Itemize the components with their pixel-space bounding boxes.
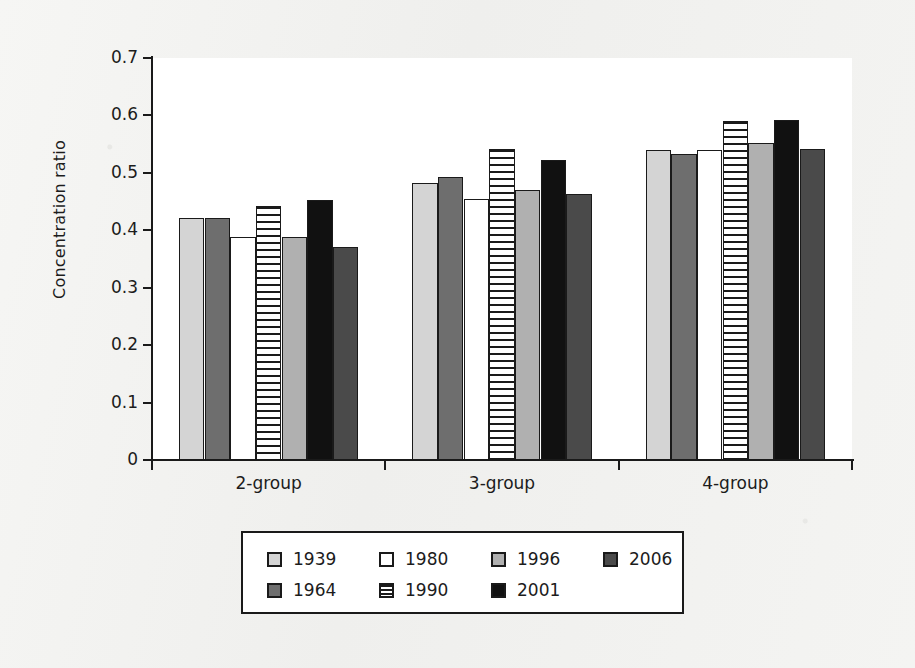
legend: 1939198019962006196419902001 (241, 531, 684, 614)
y-axis-tick-label: 0.2 (38, 336, 138, 353)
bar-4-group-1996 (748, 143, 774, 460)
legend-label: 1964 (293, 582, 336, 599)
x-axis-category-label: 3-group (385, 474, 618, 493)
plot-area (152, 58, 852, 460)
y-axis-tick (143, 229, 152, 231)
legend-label: 1939 (293, 551, 336, 568)
bar-3-group-2001 (541, 160, 567, 460)
x-axis-tick (618, 461, 620, 470)
legend-swatch-icon-1980 (379, 552, 394, 567)
bar-4-group-1980 (697, 150, 723, 460)
bar-4-group-2001 (774, 120, 800, 460)
bar-2-group-2001 (307, 200, 333, 460)
bar-3-group-1996 (515, 190, 541, 460)
legend-swatch-icon-1990 (379, 583, 394, 598)
legend-swatch-icon-2001 (491, 583, 506, 598)
bar-3-group-2006 (566, 194, 592, 460)
legend-label: 1996 (517, 551, 560, 568)
bar-2-group-1964 (205, 218, 231, 460)
legend-swatch-icon-2006 (603, 552, 618, 567)
bar-2-group-2006 (333, 247, 359, 460)
legend-item-1939[interactable]: 1939 (267, 551, 379, 568)
y-axis-tick (143, 172, 152, 174)
legend-swatch-icon-1964 (267, 583, 282, 598)
legend-swatch-icon-1939 (267, 552, 282, 567)
y-axis-tick (143, 287, 152, 289)
bar-chart: 0.70.60.50.40.30.20.10 2-group3-group4-g… (0, 0, 915, 668)
x-axis-line (151, 459, 854, 461)
legend-swatch-icon-1996 (491, 552, 506, 567)
bar-2-group-1980 (230, 237, 256, 460)
y-axis-tick-label: 0.7 (38, 49, 138, 66)
bar-2-group-1939 (179, 218, 205, 460)
x-axis-tick (384, 461, 386, 470)
y-axis-tick (143, 402, 152, 404)
bar-3-group-1980 (464, 199, 490, 460)
legend-item-1990[interactable]: 1990 (379, 582, 491, 599)
y-axis-tick (143, 114, 152, 116)
legend-grid: 1939198019962006196419902001 (267, 544, 682, 606)
legend-label: 1990 (405, 582, 448, 599)
x-axis-tick (851, 461, 853, 470)
y-axis-title: Concentration ratio (50, 120, 69, 320)
legend-label: 1980 (405, 551, 448, 568)
legend-label: 2006 (629, 551, 672, 568)
legend-label: 2001 (517, 582, 560, 599)
x-axis-tick (151, 461, 153, 470)
bar-3-group-1964 (438, 177, 464, 460)
bar-4-group-1964 (671, 154, 697, 460)
bar-2-group-1996 (282, 237, 308, 460)
bar-3-group-1990 (489, 149, 515, 460)
x-axis-category-label: 4-group (619, 474, 852, 493)
bar-4-group-1990 (723, 121, 749, 460)
legend-item-2006[interactable]: 2006 (603, 551, 713, 568)
bar-3-group-1939 (412, 183, 438, 460)
legend-item-1996[interactable]: 1996 (491, 551, 603, 568)
y-axis-tick-label: 0 (38, 451, 138, 468)
bar-4-group-2006 (800, 149, 826, 460)
y-axis-tick-label: 0.1 (38, 394, 138, 411)
legend-item-2001[interactable]: 2001 (491, 582, 603, 599)
y-axis-tick (143, 57, 152, 59)
bar-2-group-1990 (256, 206, 282, 460)
legend-item-1980[interactable]: 1980 (379, 551, 491, 568)
x-axis-category-label: 2-group (152, 474, 385, 493)
legend-item-1964[interactable]: 1964 (267, 582, 379, 599)
bar-4-group-1939 (646, 150, 672, 460)
y-axis-tick (143, 344, 152, 346)
